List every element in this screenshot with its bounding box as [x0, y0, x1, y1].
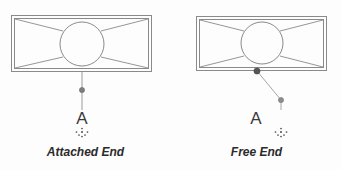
- diagonal-bottom-right-free: [280, 56, 323, 67]
- diagonal-bottom-left-attached: [15, 57, 63, 68]
- leader-node-free: [278, 97, 283, 102]
- diagonal-top-left-attached: [15, 19, 63, 31]
- center-circle-attached: [60, 22, 104, 66]
- leader-line-diagonal-free: [257, 71, 281, 100]
- center-circle-free: [241, 22, 283, 64]
- inner-rectangle-free: [200, 20, 324, 68]
- inner-rectangle-attached: [15, 19, 149, 69]
- datum-dot-cluster-free: [275, 128, 288, 138]
- datum-dot-cluster-attached: [76, 128, 89, 138]
- diagonal-top-left-free: [200, 20, 244, 31]
- diagonal-bottom-left-free: [200, 56, 244, 67]
- section-mark-letter-free: A: [171, 110, 341, 127]
- figure-canvas: A A Attached End Free End: [0, 0, 342, 170]
- caption-attached-end: Attached End: [0, 146, 171, 158]
- caption-free-end: Free End: [171, 146, 342, 158]
- leader-node-attached: [79, 87, 84, 92]
- anchor-node-free: [254, 68, 260, 74]
- diagonal-bottom-right-attached: [101, 57, 148, 68]
- diagonal-top-right-free: [280, 20, 323, 31]
- section-mark-letter-attached: A: [0, 110, 164, 127]
- diagonal-top-right-attached: [101, 19, 148, 31]
- outer-rectangle-free: [197, 17, 327, 71]
